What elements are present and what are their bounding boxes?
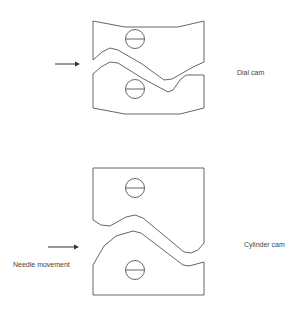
cylinder-cam-upper-plate [93,168,204,253]
cylinder-cam-lower-plate [93,231,204,295]
cam-diagram: Dial cam Cylinder cam Needle movement [0,0,305,310]
needle-movement-label: Needle movement [13,261,70,268]
screw-icon [126,179,145,198]
dial-cam-label: Dial cam [237,69,264,76]
arrow-right-icon [55,62,80,67]
screw-icon [126,261,145,280]
dial-cam-upper-plate [93,21,204,80]
arrow-right-icon [48,245,79,250]
screw-icon [126,30,145,49]
cylinder-cam-label: Cylinder cam [244,241,285,248]
screw-icon [126,80,145,99]
